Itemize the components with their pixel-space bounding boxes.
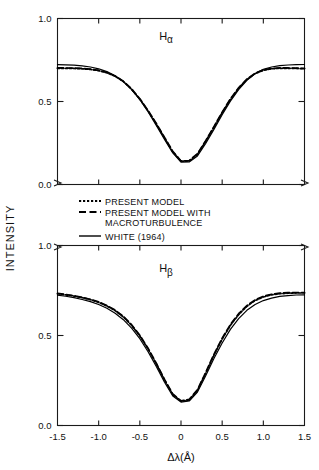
ytick-label: 0.5: [38, 96, 51, 107]
legend-item-white-1964: WHITE (1964): [79, 232, 165, 242]
legend-item-present-model: PRESENT MODEL: [79, 197, 184, 207]
panel-hbeta-frame: [58, 246, 305, 426]
panel-halpha-curves: [58, 64, 305, 162]
panel-hbeta-ytick-labels: 0.00.51.0: [38, 240, 51, 431]
panel-hbeta-title: Hβ: [159, 262, 173, 278]
xtick-label: -1.5: [49, 431, 65, 442]
ytick-label: 0.5: [38, 330, 51, 341]
curve-dashed: [58, 292, 305, 400]
legend-item-present-model-macroturbulence: PRESENT MODEL WITH MACROTURBULENCE: [79, 208, 211, 229]
plot-svg: 0.00.51.0 Hα 0.00.51.0 Hβ -1.5-1.0-0.500…: [0, 0, 319, 470]
panel-halpha-frame: [58, 19, 305, 185]
ytick-label: 0.0: [38, 420, 51, 431]
xaxis-tick-labels: -1.5-1.0-0.500.51.01.5: [49, 431, 311, 442]
legend-label-macroturbulence-line2: MACROTURBULENCE: [105, 218, 203, 228]
legend: PRESENT MODEL PRESENT MODEL WITH MACROTU…: [79, 197, 211, 242]
xtick-label: -1.0: [90, 431, 106, 442]
panel-halpha: 0.00.51.0 Hα: [38, 13, 304, 190]
panel-halpha-title: Hα: [159, 30, 173, 45]
curve-solid: [58, 64, 305, 162]
yaxis-label: INTENSITY: [4, 205, 16, 271]
curve-solid: [58, 295, 305, 402]
curve-dotted: [58, 68, 305, 161]
xaxis-label: Δλ(Å): [167, 451, 195, 463]
figure-root: 0.00.51.0 Hα 0.00.51.0 Hβ -1.5-1.0-0.500…: [0, 0, 319, 470]
ytick-label: 0.0: [38, 179, 51, 190]
panel-hbeta-ticks: [58, 246, 305, 426]
legend-label-present-model: PRESENT MODEL: [105, 197, 184, 207]
legend-label-white-1964: WHITE (1964): [105, 232, 165, 242]
xtick-label: 1.5: [298, 431, 311, 442]
curve-dotted: [58, 293, 305, 401]
curve-dashed: [58, 68, 305, 161]
panel-halpha-ytick-labels: 0.00.51.0: [38, 13, 51, 190]
xtick-label: 0.5: [216, 431, 229, 442]
ytick-label: 1.0: [38, 13, 51, 24]
panel-hbeta: 0.00.51.0 Hβ: [38, 240, 304, 431]
panel-halpha-ticks: [58, 19, 305, 185]
xtick-label: -0.5: [132, 431, 148, 442]
legend-label-macroturbulence-line1: PRESENT MODEL WITH: [105, 208, 211, 218]
xtick-label: 1.0: [257, 431, 270, 442]
panel-hbeta-curves: [58, 292, 305, 402]
ytick-label: 1.0: [38, 240, 51, 251]
xtick-label: 0: [178, 431, 183, 442]
